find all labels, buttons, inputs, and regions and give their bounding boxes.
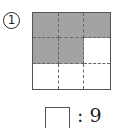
grid-cell-empty [59,64,85,89]
grid-cell-shaded [33,13,59,38]
grid-cell-shaded [59,13,85,38]
grid-cell-empty [84,64,110,89]
grid-cell-empty [84,38,110,63]
grid-cell-shaded [59,38,85,63]
grid-cell-empty [33,64,59,89]
answer-input-box[interactable] [45,107,70,128]
fraction-grid [32,12,111,90]
problem-number-badge: 1 [3,12,20,29]
grid-cell-shaded [84,13,110,38]
ratio-text: : 9 [77,104,102,126]
grid-cell-shaded [33,38,59,63]
